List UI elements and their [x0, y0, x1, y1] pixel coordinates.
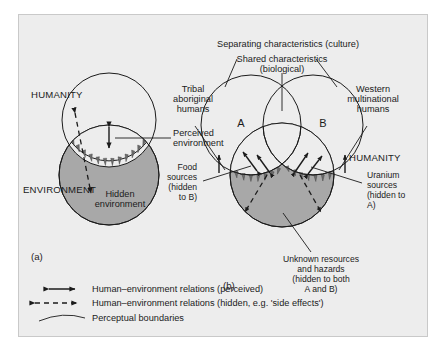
label-unknown-line4: A and B) — [305, 284, 338, 294]
diagram-svg: HUMANITY ENVIRONMENT Perceived environme… — [19, 15, 427, 336]
leader-western — [339, 126, 367, 170]
label-uranium-line2: sources — [367, 180, 397, 190]
label-unknown-line3: (hidden to both — [292, 274, 350, 284]
label-food-line1: Food — [177, 162, 197, 172]
figure-panel: HUMANITY ENVIRONMENT Perceived environme… — [18, 14, 428, 337]
label-perceived-environment-line1: Perceived — [173, 128, 214, 138]
label-humanity-b: HUMANITY — [349, 152, 401, 163]
legend: Human–environment relations (perceived) … — [35, 284, 324, 323]
leader-separating-left — [225, 59, 237, 87]
label-humanity-a: HUMANITY — [31, 89, 83, 100]
label-tribal-line3: humans — [177, 104, 210, 114]
label-set-b: B — [319, 117, 326, 129]
label-hidden-environment-line1: Hidden — [105, 189, 134, 199]
label-tribal-line2: aboriginal — [173, 94, 213, 104]
legend-item-hidden: Human–environment relations (hidden, e.g… — [35, 298, 324, 308]
label-hidden-environment-line2: environment — [95, 199, 146, 209]
label-western-line1: Western — [356, 84, 390, 94]
legend-item-perceived: Human–environment relations (perceived) — [49, 284, 263, 294]
legend-label-perceived: Human–environment relations (perceived) — [92, 284, 263, 294]
panel-label-a: (a) — [31, 251, 43, 262]
label-unknown-line2: and hazards — [297, 264, 344, 274]
label-food-line2: sources — [167, 172, 197, 182]
label-uranium-line4: A) — [367, 200, 376, 210]
label-food-line3: (hidden — [168, 182, 197, 192]
label-tribal-line1: Tribal — [182, 84, 205, 94]
legend-label-hidden: Human–environment relations (hidden, e.g… — [92, 298, 324, 308]
label-set-a: A — [237, 117, 245, 129]
legend-label-boundaries: Perceptual boundaries — [92, 313, 184, 323]
label-uranium-line1: Uranium — [367, 170, 399, 180]
label-uranium-line3: (hidden to — [367, 190, 405, 200]
label-separating-characteristics: Separating characteristics (culture) — [217, 39, 359, 49]
label-shared-characteristics-line2: (biological) — [260, 64, 304, 74]
label-food-line4: to B) — [179, 192, 197, 202]
label-western-line3: humans — [357, 104, 390, 114]
label-western-line2: multinational — [347, 94, 399, 104]
label-environment-a: ENVIRONMENT — [23, 184, 96, 195]
arc-curve-icon — [39, 315, 85, 321]
label-shared-characteristics-line1: Shared characteristics — [237, 54, 328, 64]
legend-item-boundaries: Perceptual boundaries — [39, 313, 184, 323]
label-perceived-environment-line2: environment — [173, 138, 224, 148]
label-unknown-line1: Unknown resources — [283, 254, 359, 264]
panel-b: Separating characteristics (culture) Sha… — [167, 39, 406, 294]
